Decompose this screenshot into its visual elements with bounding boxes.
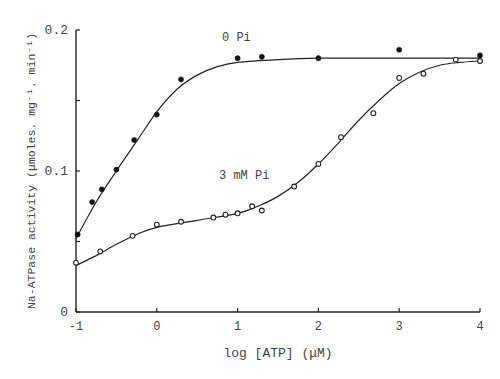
x-tick-label: 1 [234,320,241,334]
y-tick-label: 0 [60,305,68,320]
data-point-0-pi [178,77,183,82]
y-axis-label: Na-ATPase activity (μmoles. mg⁻¹. min⁻¹) [25,33,38,309]
series-label-3mm-pi: 3 mM Pi [219,169,269,183]
curve-3mm-pi [76,61,480,265]
data-point-0-pi [477,53,482,58]
x-axis-label: log [ATP] (μM) [223,346,332,361]
curve-0-pi [76,58,480,239]
data-point-3mm-pi [397,76,402,81]
data-point-3mm-pi [421,71,426,76]
data-point-3mm-pi [292,184,297,189]
data-point-0-pi [397,47,402,52]
x-tick-label: 0 [153,320,160,334]
x-tick-label: 2 [315,320,322,334]
data-point-0-pi [75,232,80,237]
fit-curves [76,58,480,265]
data-point-3mm-pi [223,212,228,217]
data-point-3mm-pi [339,135,344,140]
data-point-0-pi [132,137,137,142]
data-point-0-pi [90,199,95,204]
data-point-3mm-pi [453,57,458,62]
chart: -10123400.10.2 0 Pi 3 mM Pi log [ATP] (μ… [0,0,500,379]
series-label-0-pi: 0 Pi [222,31,251,45]
x-tick-label: 3 [396,320,403,334]
data-point-0-pi [259,54,264,59]
data-point-3mm-pi [235,211,240,216]
data-point-3mm-pi [316,162,321,167]
y-tick-label: 0.2 [45,23,68,38]
data-point-3mm-pi [179,219,184,224]
data-point-0-pi [154,112,159,117]
data-point-0-pi [316,56,321,61]
x-tick-label: 4 [476,320,483,334]
data-point-3mm-pi [211,215,216,220]
data-point-3mm-pi [74,260,79,265]
data-point-3mm-pi [154,222,159,227]
data-point-0-pi [114,167,119,172]
data-point-3mm-pi [259,208,264,213]
x-tick-label: -1 [69,320,83,334]
data-point-3mm-pi [130,233,135,238]
data-point-3mm-pi [371,111,376,116]
data-point-0-pi [235,56,240,61]
data-point-3mm-pi [250,204,255,209]
data-point-3mm-pi [98,249,103,254]
y-tick-label: 0.1 [45,164,69,179]
data-points [74,47,483,265]
data-point-0-pi [99,187,104,192]
data-point-3mm-pi [478,59,483,64]
